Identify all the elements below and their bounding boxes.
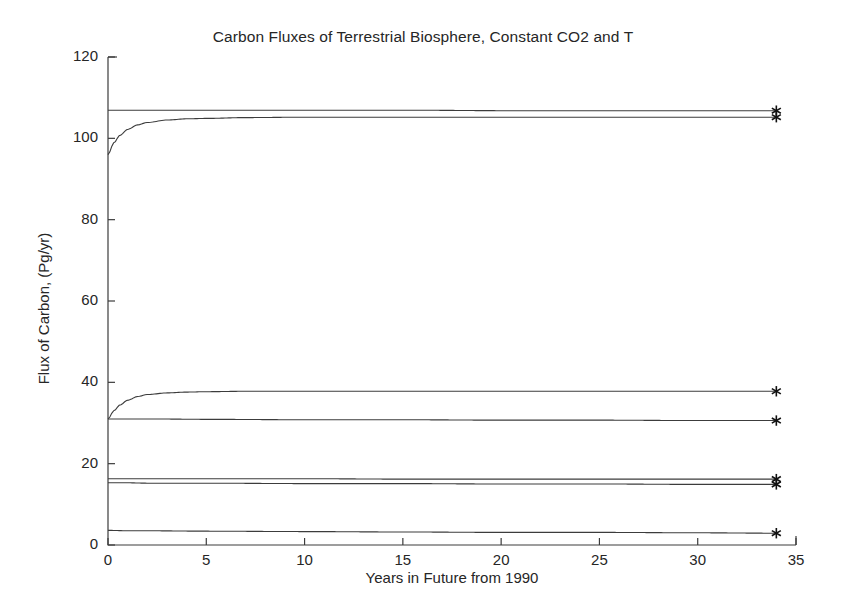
series-line	[108, 391, 776, 419]
plot-area	[0, 0, 846, 604]
x-tick-label: 10	[275, 551, 335, 568]
y-tick-label: 80	[38, 210, 98, 227]
x-tick-label: 20	[471, 551, 531, 568]
y-tick-label: 20	[38, 454, 98, 471]
series-line	[108, 117, 776, 154]
series-line	[108, 419, 776, 421]
x-tick-label: 5	[176, 551, 236, 568]
y-tick-label: 120	[38, 47, 98, 64]
axis-ticks	[108, 57, 796, 545]
x-tick-label: 35	[766, 551, 826, 568]
x-tick-label: 0	[78, 551, 138, 568]
axes	[108, 57, 796, 545]
y-tick-label: 0	[38, 535, 98, 552]
y-tick-label: 60	[38, 291, 98, 308]
x-tick-label: 30	[668, 551, 728, 568]
y-tick-label: 40	[38, 372, 98, 389]
x-tick-label: 15	[373, 551, 433, 568]
series-line	[108, 530, 776, 533]
endpoint-markers	[772, 105, 781, 538]
data-series	[108, 110, 776, 533]
chart-figure: Carbon Fluxes of Terrestrial Biosphere, …	[0, 0, 846, 604]
y-tick-label: 100	[38, 128, 98, 145]
x-tick-label: 25	[569, 551, 629, 568]
series-line	[108, 483, 776, 485]
